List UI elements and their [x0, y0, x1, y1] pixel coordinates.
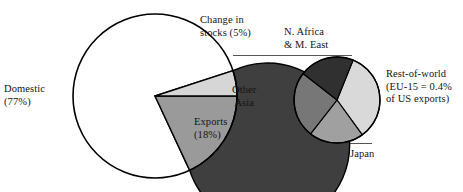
exports-breakout-pie: [294, 57, 380, 143]
label-rest-of-world-line3: of US exports): [386, 93, 452, 106]
label-change-in-stocks-line2: stocks (5%): [200, 27, 251, 40]
label-domestic-line1: Domestic: [4, 83, 45, 96]
label-rest-of-world-line1: Rest-of-world: [386, 68, 452, 81]
label-n-africa-m-east: N. Africa & M. East: [284, 26, 328, 51]
label-n-africa-m-east-line2: & M. East: [284, 39, 328, 52]
label-rest-of-world-line2: (EU-15 = 0.4%: [386, 81, 452, 94]
label-other-asia-line1: Other: [232, 84, 256, 97]
label-exports-line2: (18%): [194, 129, 227, 142]
label-rest-of-world: Rest-of-world (EU-15 = 0.4% of US export…: [386, 68, 452, 106]
label-change-in-stocks-line1: Change in: [200, 14, 251, 27]
pie-chart-figure: Domestic (77%) Change in stocks (5%) N. …: [0, 0, 463, 192]
label-change-in-stocks: Change in stocks (5%): [200, 14, 251, 39]
label-domestic: Domestic (77%): [4, 83, 45, 108]
label-exports: Exports (18%): [194, 116, 227, 141]
label-exports-line1: Exports: [194, 116, 227, 129]
label-other-asia-line2: Asia: [232, 97, 256, 110]
label-japan: Japan: [350, 148, 374, 161]
label-other-asia: Other Asia: [232, 84, 256, 109]
label-n-africa-m-east-line1: N. Africa: [284, 26, 328, 39]
label-domestic-line2: (77%): [4, 96, 45, 109]
pie-slice-change-in-stocks[interactable]: [155, 71, 237, 96]
label-japan-line1: Japan: [350, 148, 374, 161]
